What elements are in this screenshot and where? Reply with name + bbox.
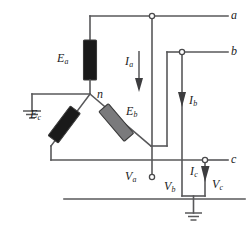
label-terminal-a: a	[231, 9, 237, 21]
circuit-diagram: Ea Eb Ec n a b c Ia Ib Ic Va Vb Vc	[0, 0, 252, 228]
current-arrow-ia	[135, 51, 143, 92]
source-element-ec	[48, 106, 80, 143]
current-arrow-ic	[201, 166, 210, 182]
label-terminal-b: b	[231, 45, 237, 57]
label-current-ic: Ic	[190, 165, 198, 177]
label-current-ib: Ib	[189, 94, 197, 106]
label-voltage-vc: Vc	[212, 178, 223, 190]
label-voltage-va: Va	[125, 170, 136, 182]
label-neutral-node: n	[97, 88, 103, 100]
label-terminal-c: c	[231, 153, 236, 165]
label-source-eb: Eb	[126, 105, 137, 117]
node-terminal-a[interactable]	[149, 13, 154, 18]
label-source-ea: Ea	[57, 52, 68, 64]
current-arrow-ib	[178, 92, 186, 107]
label-source-ec: Ec	[30, 108, 41, 120]
node-terminal-b[interactable]	[179, 49, 184, 54]
node-terminal-c[interactable]	[202, 157, 207, 162]
ground-symbol-reference	[185, 213, 202, 220]
label-current-ia: Ia	[125, 55, 133, 67]
node-terminal-va[interactable]	[149, 174, 154, 179]
source-element-ea	[84, 40, 97, 80]
label-voltage-vb: Vb	[164, 180, 175, 192]
